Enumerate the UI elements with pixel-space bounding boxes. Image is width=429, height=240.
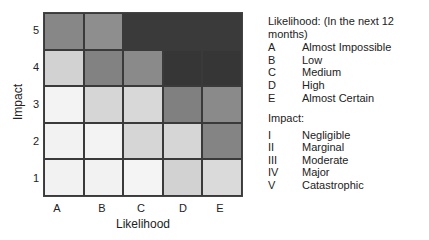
- legend-label: Marginal: [302, 141, 344, 154]
- legend-label: Almost Impossible: [302, 41, 391, 54]
- matrix-cell-4-c: [123, 50, 163, 87]
- legend-item: BLow: [268, 54, 429, 67]
- legend-item: EAlmost Certain: [268, 92, 429, 105]
- matrix-cell-5-e: [202, 13, 242, 50]
- likelihood-tick-c: C: [121, 202, 161, 214]
- legend-label: Negligible: [302, 129, 350, 142]
- matrix-cell-2-a: [44, 123, 84, 160]
- likelihood-legend-title: Likelihood: (In the next 12 months): [268, 15, 429, 40]
- impact-tick-3: 3: [31, 98, 41, 110]
- legend-label: Catastrophic: [302, 179, 364, 192]
- y-axis-title: Impact: [11, 82, 25, 122]
- legend-label: High: [302, 79, 325, 92]
- likelihood-tick-e: E: [200, 202, 240, 214]
- likelihood-tick-a: A: [37, 202, 77, 214]
- legend-item: AAlmost Impossible: [268, 41, 429, 54]
- matrix-cell-3-b: [84, 86, 124, 123]
- matrix-cell-1-c: [123, 159, 163, 196]
- legend-item: DHigh: [268, 79, 429, 92]
- matrix-cell-4-a: [44, 50, 84, 87]
- impact-tick-4: 4: [31, 61, 41, 73]
- impact-tick-5: 5: [31, 24, 41, 36]
- legend-item: IVMajor: [268, 166, 364, 179]
- matrix-cell-4-b: [84, 50, 124, 87]
- legend-key: D: [268, 79, 302, 92]
- legend-key: I: [268, 129, 302, 142]
- legend-label: Moderate: [302, 154, 348, 167]
- legend-label: Medium: [302, 66, 341, 79]
- matrix-cell-5-d: [163, 13, 203, 50]
- legend-key: IV: [268, 166, 302, 179]
- matrix-cell-1-d: [163, 159, 203, 196]
- matrix-cell-1-e: [202, 159, 242, 196]
- x-axis-title: Likelihood: [43, 217, 243, 231]
- legend-key: II: [268, 141, 302, 154]
- likelihood-legend: Likelihood: (In the next 12 months) AAlm…: [268, 15, 429, 104]
- matrix-cell-5-b: [84, 13, 124, 50]
- matrix-cell-3-d: [163, 86, 203, 123]
- matrix-cell-2-d: [163, 123, 203, 160]
- matrix-cell-5-c: [123, 13, 163, 50]
- legend-key: V: [268, 179, 302, 192]
- legend-item: INegligible: [268, 129, 364, 142]
- matrix-cell-4-d: [163, 50, 203, 87]
- impact-tick-2: 2: [31, 135, 41, 147]
- legend-item: CMedium: [268, 66, 429, 79]
- matrix-cell-2-b: [84, 123, 124, 160]
- matrix-cell-3-e: [202, 86, 242, 123]
- legend-key: III: [268, 154, 302, 167]
- legend-key: C: [268, 66, 302, 79]
- matrix-cell-1-b: [84, 159, 124, 196]
- legend-label: Low: [302, 54, 322, 67]
- legend-key: E: [268, 92, 302, 105]
- matrix-cell-3-a: [44, 86, 84, 123]
- legend-item: IIIModerate: [268, 154, 364, 167]
- likelihood-tick-b: B: [82, 202, 122, 214]
- matrix-cell-1-a: [44, 159, 84, 196]
- matrix-cell-4-e: [202, 50, 242, 87]
- likelihood-tick-d: D: [163, 202, 203, 214]
- legend-label: Major: [302, 166, 330, 179]
- risk-matrix-grid: [43, 12, 243, 197]
- matrix-cell-2-c: [123, 123, 163, 160]
- legend-item: VCatastrophic: [268, 179, 364, 192]
- legend-item: IIMarginal: [268, 141, 364, 154]
- impact-legend: Impact: INegligible IIMarginal IIIModera…: [268, 112, 364, 192]
- impact-legend-title: Impact:: [268, 112, 364, 125]
- impact-tick-1: 1: [31, 172, 41, 184]
- matrix-cell-3-c: [123, 86, 163, 123]
- matrix-cell-5-a: [44, 13, 84, 50]
- matrix-cell-2-e: [202, 123, 242, 160]
- legend-label: Almost Certain: [302, 92, 374, 105]
- legend-key: B: [268, 54, 302, 67]
- legend-key: A: [268, 41, 302, 54]
